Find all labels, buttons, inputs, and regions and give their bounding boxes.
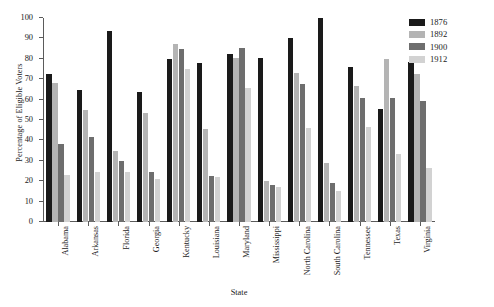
bar (258, 58, 263, 222)
bar-group (288, 18, 311, 222)
x-axis-category-labels: AlabamaArkansasFloridaGeorgiaKentuckyLou… (43, 226, 435, 288)
legend-item-1912: 1912 (409, 53, 491, 65)
legend-item-1900: 1900 (409, 41, 491, 53)
bar (58, 144, 63, 222)
bar (288, 38, 293, 222)
y-tick-label: 10 (25, 196, 33, 205)
bar (294, 73, 299, 222)
legend-item-1892: 1892 (409, 28, 491, 40)
bar (113, 151, 118, 222)
bar (348, 67, 353, 222)
bar (324, 163, 329, 222)
chart-figure: Percentage of Eligible Voters 0102030405… (0, 0, 494, 307)
bar (390, 98, 395, 222)
legend-label: 1876 (430, 18, 447, 27)
bar (209, 176, 214, 222)
y-tick-label: 80 (25, 53, 33, 62)
plot-area: 0102030405060708090100 (43, 18, 435, 222)
bar (366, 127, 371, 222)
bar (107, 31, 112, 222)
x-axis-label-georgia: Georgia (152, 226, 161, 252)
bar-group (107, 18, 130, 222)
bar (155, 179, 160, 222)
y-tick-label: 40 (25, 135, 33, 144)
bar (306, 128, 311, 222)
bar (360, 98, 365, 222)
bar (179, 49, 184, 222)
bar (378, 109, 383, 222)
x-axis-label-maryland: Maryland (242, 226, 251, 258)
x-axis-label-mississippi: Mississippi (272, 226, 281, 263)
bar (276, 187, 281, 222)
x-axis-label-arkansas: Arkansas (91, 226, 100, 256)
bar (119, 161, 124, 222)
bar (408, 62, 413, 222)
bar (396, 154, 401, 222)
y-tick-label: 20 (25, 176, 33, 185)
bar-group (197, 18, 220, 222)
bar-group (46, 18, 69, 222)
bar (173, 44, 178, 223)
x-axis-label-texas: Texas (393, 226, 402, 245)
bar (185, 69, 190, 222)
bar (197, 63, 202, 222)
bar (414, 74, 419, 222)
bar-group (258, 18, 281, 222)
legend-label: 1912 (430, 55, 447, 64)
bar (318, 18, 323, 222)
x-axis-label-tennessee: Tennessee (363, 226, 372, 260)
bar (239, 48, 244, 222)
y-axis-title: Percentage of Eligible Voters (15, 28, 24, 198)
bar (143, 113, 148, 222)
x-axis-label-virginia: Virginia (423, 226, 432, 253)
bar (426, 168, 431, 222)
legend-swatch (409, 56, 425, 63)
bar (167, 59, 172, 222)
y-tick-label: 90 (25, 33, 33, 42)
bar-group (318, 18, 341, 222)
bar (52, 83, 57, 222)
bar (245, 88, 250, 222)
bar (89, 137, 94, 222)
bar (64, 175, 69, 222)
bar (420, 101, 425, 222)
legend-item-1876: 1876 (409, 16, 491, 28)
bar (83, 110, 88, 222)
x-axis-label-louisiana: Louisiana (212, 226, 221, 258)
bar (137, 92, 142, 222)
legend-swatch (409, 43, 425, 50)
bar (384, 59, 389, 222)
bar-group (137, 18, 160, 222)
legend-label: 1900 (430, 43, 447, 52)
x-axis-label-kentucky: Kentucky (182, 226, 191, 258)
bar (300, 84, 305, 222)
bar-groups (43, 18, 435, 222)
y-tick-label: 60 (25, 94, 33, 103)
y-tick-label: 70 (25, 74, 33, 83)
bar (149, 172, 154, 222)
y-tick-label: 50 (25, 115, 33, 124)
bar-group (167, 18, 190, 222)
legend-swatch (409, 19, 425, 26)
bar (227, 54, 232, 222)
legend-label: 1892 (430, 30, 447, 39)
bar (46, 74, 51, 222)
bar (233, 58, 238, 222)
bar (354, 86, 359, 222)
x-axis-label-florida: Florida (122, 226, 131, 250)
bar-group (227, 18, 250, 222)
chart-legend: 1876189219001912 (409, 16, 491, 66)
bar (264, 181, 269, 222)
bar (336, 191, 341, 222)
y-tick-label: 0 (29, 217, 33, 226)
bar (77, 90, 82, 222)
bar (95, 172, 100, 222)
bar-group (378, 18, 401, 222)
bar (125, 172, 130, 222)
x-axis-label-south-carolina: South Carolina (333, 226, 342, 275)
bar (203, 129, 208, 222)
x-axis-label-north-carolina: North Carolina (303, 226, 312, 275)
bar (215, 177, 220, 222)
bar-group (348, 18, 371, 222)
bar (330, 183, 335, 222)
